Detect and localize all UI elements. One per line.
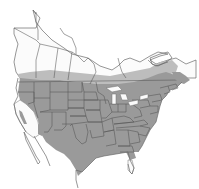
range-map [0, 0, 199, 189]
range-area [18, 60, 182, 176]
